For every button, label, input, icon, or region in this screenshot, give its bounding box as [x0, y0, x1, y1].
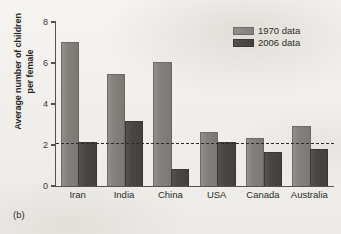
y-tick-label-0: 0 [36, 182, 48, 191]
legend-item-1970: 1970 data [233, 26, 300, 36]
legend-swatch-1970 [233, 27, 254, 36]
y-axis-title: Average number of children per female [13, 0, 36, 147]
legend-swatch-2006 [233, 39, 254, 48]
figure-panel-b: 02468 Average number of children per fem… [0, 0, 341, 234]
bar-usa-2006 [217, 142, 236, 186]
bar-india-2006 [125, 121, 144, 186]
bar-india-1970 [107, 74, 126, 186]
y-axis-title-line2: per female [24, 49, 34, 93]
y-tick-mark-2 [51, 144, 56, 145]
y-tick-label-2: 2 [36, 141, 48, 150]
legend: 1970 data2006 data [233, 26, 300, 48]
bar-australia-2006 [310, 149, 329, 186]
x-tick-label-australia: Australia [279, 190, 339, 200]
legend-label-1970: 1970 data [258, 26, 300, 36]
bar-china-2006 [171, 169, 190, 186]
y-tick-label-8: 8 [36, 18, 48, 27]
bar-iran-1970 [61, 42, 80, 187]
y-tick-label-4: 4 [36, 100, 48, 109]
bar-china-1970 [153, 62, 172, 186]
legend-item-2006: 2006 data [233, 38, 300, 48]
bar-australia-1970 [292, 126, 311, 186]
y-tick-mark-4 [51, 103, 56, 104]
legend-label-2006: 2006 data [258, 38, 300, 48]
bar-usa-1970 [200, 132, 219, 186]
y-tick-mark-0 [51, 185, 56, 186]
y-tick-mark-8 [51, 21, 56, 22]
y-tick-mark-6 [51, 62, 56, 63]
y-tick-label-6: 6 [36, 59, 48, 68]
bar-canada-1970 [246, 138, 265, 186]
replacement-rate-reference-line [56, 143, 334, 144]
bar-iran-2006 [78, 142, 97, 186]
y-axis-title-line1: Average number of children [13, 13, 23, 130]
bar-canada-2006 [264, 152, 283, 186]
panel-caption: (b) [13, 210, 25, 220]
